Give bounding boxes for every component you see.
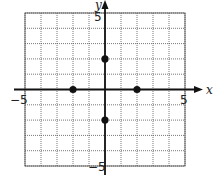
- axes: [14, 0, 203, 175]
- x-axis-label: x: [206, 83, 213, 97]
- x-max-tick-label: 5: [180, 93, 188, 107]
- data-point: [133, 86, 140, 93]
- y-min-tick-label: −5: [88, 160, 106, 174]
- x-axis-arrow-icon: [194, 86, 203, 93]
- x-min-tick-label: −5: [10, 93, 28, 107]
- data-point: [101, 117, 108, 124]
- y-max-tick-label: 5: [94, 10, 102, 24]
- data-point: [101, 55, 108, 62]
- coordinate-plane: x y −5 5 5 −5: [0, 0, 221, 178]
- y-axis-arrow-icon: [102, 0, 109, 9]
- data-point: [69, 86, 76, 93]
